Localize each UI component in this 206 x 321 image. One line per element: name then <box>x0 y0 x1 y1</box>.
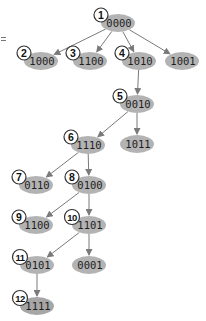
node-label: 1011 <box>125 138 150 150</box>
step-number: 1 <box>98 9 104 21</box>
tree-node-1101: 110110 <box>65 210 107 235</box>
edge-arrow-n6-n8 <box>88 154 89 175</box>
tree-node-1010: 10104 <box>115 46 156 70</box>
step-number: 10 <box>67 212 77 223</box>
edge-arrow-n1-n1001 <box>129 30 170 54</box>
node-label: 1010 <box>127 55 152 67</box>
nodes: 0000110002110031010410010010510111110601… <box>12 8 199 315</box>
tree-node-0001: 0001 <box>72 256 106 274</box>
search-tree-diagram: 0000110002110031010410010010510111110601… <box>0 0 206 321</box>
edges <box>37 29 170 296</box>
step-number: 11 <box>15 252 25 263</box>
edge-arrow-n4-n5 <box>138 70 139 94</box>
tree-node-1000: 10002 <box>17 46 58 70</box>
step-number: 9 <box>16 211 22 223</box>
node-label: 1111 <box>25 300 50 312</box>
edge-arrow-n5-n6 <box>98 112 128 137</box>
edge-arrow-n10-n11 <box>47 232 79 257</box>
tree-node-0100: 01008 <box>65 170 106 194</box>
tree-node-0110: 01107 <box>12 170 53 194</box>
node-label: 0110 <box>24 179 49 191</box>
tree-node-1100: 11003 <box>66 46 107 70</box>
node-label: 0010 <box>125 98 150 110</box>
node-label: 1100 <box>78 55 103 67</box>
tree-node-0010: 00105 <box>113 89 154 113</box>
node-label: 1101 <box>77 219 102 231</box>
step-number: 5 <box>117 90 123 102</box>
step-number: 7 <box>16 171 22 183</box>
node-label: 0001 <box>77 259 102 271</box>
step-number: 3 <box>70 47 76 59</box>
step-number: 12 <box>15 293 25 304</box>
tree-node-1100: 11009 <box>12 210 53 234</box>
node-label: 0000 <box>106 17 131 29</box>
step-number: 6 <box>68 131 74 143</box>
tree-node-1110: 11106 <box>64 130 105 154</box>
node-label: 1100 <box>24 219 49 231</box>
tree-node-0000: 00001 <box>94 8 135 32</box>
node-label: 0100 <box>77 179 102 191</box>
node-label: 1001 <box>170 55 195 67</box>
node-label: 1110 <box>76 139 101 151</box>
node-label: 1000 <box>29 55 54 67</box>
tree-node-1011: 1011 <box>120 135 154 153</box>
edge-arrow-n1-n3 <box>97 31 112 51</box>
step-number: 2 <box>21 47 27 59</box>
step-number: 8 <box>69 171 75 183</box>
tree-node-1111: 111112 <box>13 291 55 316</box>
tree-node-1001: 1001 <box>165 52 199 70</box>
node-label: 0101 <box>25 259 50 271</box>
step-number: 4 <box>119 47 125 59</box>
tree-node-0101: 010111 <box>13 250 55 275</box>
